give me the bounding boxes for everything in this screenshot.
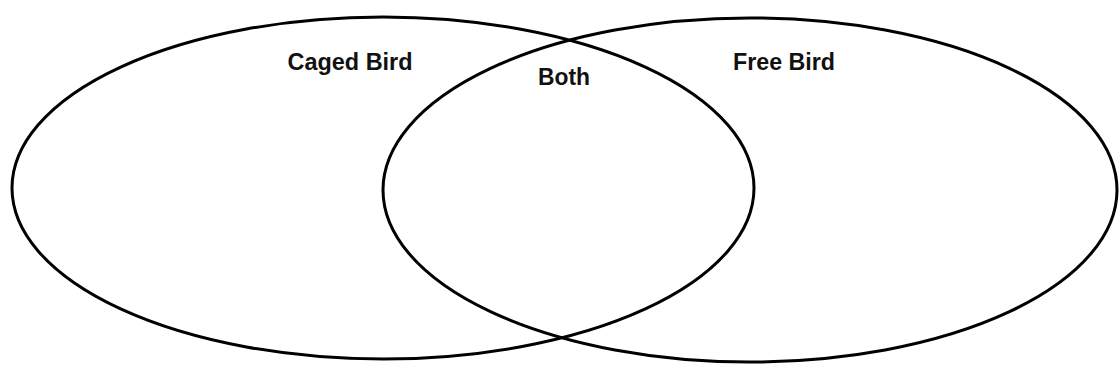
venn-diagram: Caged Bird Both Free Bird — [0, 0, 1119, 369]
both-label: Both — [538, 63, 590, 90]
free-bird-label: Free Bird — [733, 48, 835, 75]
caged-bird-label: Caged Bird — [288, 48, 413, 75]
